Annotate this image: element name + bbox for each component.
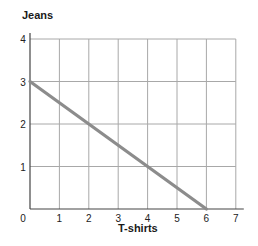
x-tick-label: 1 (57, 213, 63, 224)
x-tick-label: 4 (145, 213, 151, 224)
axes (30, 33, 244, 209)
y-tick-label: 1 (20, 162, 26, 173)
y-tick-label: 2 (20, 119, 26, 130)
x-tick-label: 0 (20, 213, 26, 224)
x-tick-label: 3 (115, 213, 121, 224)
y-tick-label: 4 (20, 34, 26, 45)
x-tick-label: 2 (86, 213, 92, 224)
x-tick-label: 7 (233, 213, 239, 224)
x-tick-label: 6 (204, 213, 210, 224)
x-tick-label: 5 (174, 213, 180, 224)
y-tick-label: 3 (20, 77, 26, 88)
gridlines (30, 39, 236, 209)
chart-plot-area: 012345671234 (0, 0, 258, 246)
